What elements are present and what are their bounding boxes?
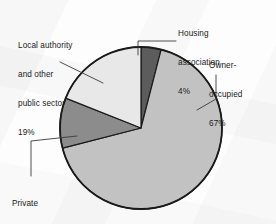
slice-label-owner-occupied-line2: occupied <box>209 90 242 100</box>
slice-label-housing-association-line1: Housing <box>178 29 220 39</box>
slice-label-private-rented-line1: Private <box>12 199 38 209</box>
slice-label-owner-occupied-line1: Owner- <box>209 61 242 71</box>
slice-label-local-authority-line3: public sector <box>18 99 72 109</box>
slice-label-local-authority-value: 19% <box>18 128 72 138</box>
slice-label-owner-occupied: Owner- occupied 67% <box>209 42 242 148</box>
pie-chart-figure: Local authority and other public sector … <box>0 0 276 224</box>
slice-label-local-authority: Local authority and other public sector … <box>18 22 72 156</box>
slice-label-local-authority-line2: and other <box>18 70 72 80</box>
slice-label-owner-occupied-value: 67% <box>209 119 242 129</box>
slice-label-private-rented: Private rented 10% <box>12 180 38 224</box>
slice-label-local-authority-line1: Local authority <box>18 41 72 51</box>
